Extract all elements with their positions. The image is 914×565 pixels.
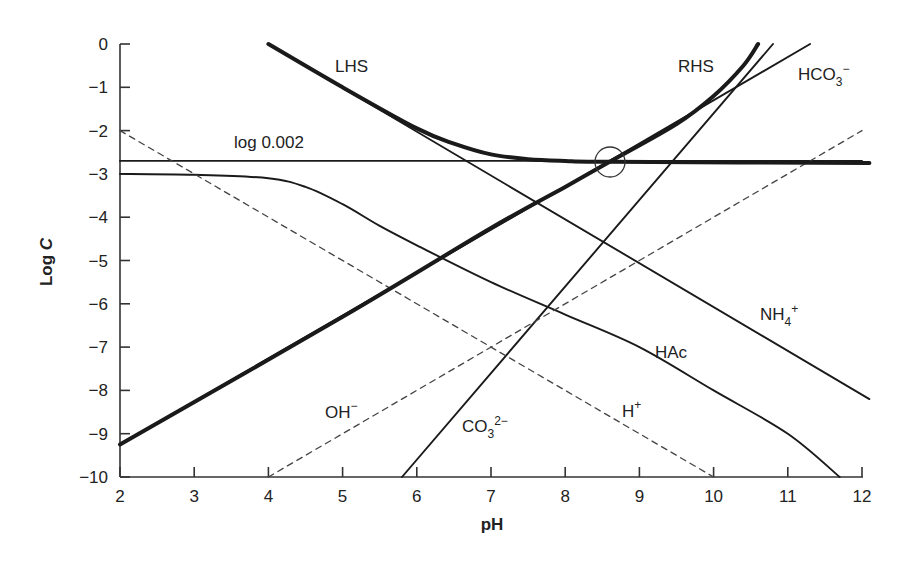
- series-h: [120, 131, 714, 477]
- x-tick-label: 5: [338, 487, 347, 506]
- series-co3-2: [402, 44, 773, 477]
- label-hac: HAc: [655, 343, 688, 362]
- x-tick-label: 10: [704, 487, 723, 506]
- y-tick-label: −3: [89, 165, 108, 184]
- x-tick-label: 3: [189, 487, 198, 506]
- label-lhs: LHS: [335, 57, 368, 76]
- y-tick-label: −9: [89, 425, 108, 444]
- series-lines: [120, 44, 869, 477]
- y-tick-label: −5: [89, 252, 108, 271]
- x-tick-label: 2: [115, 487, 124, 506]
- label-h: H+: [622, 398, 641, 421]
- x-tick-label: 8: [560, 487, 569, 506]
- y-tick-label: −7: [89, 338, 108, 357]
- y-tick-label: −8: [89, 381, 108, 400]
- label-co3: CO32−: [462, 414, 508, 441]
- x-tick-label: 9: [635, 487, 644, 506]
- y-axis-title: Log C: [37, 237, 56, 286]
- label-oh: OH−: [325, 399, 358, 422]
- y-tick-label: −4: [89, 208, 108, 227]
- y-tick-label: −6: [89, 295, 108, 314]
- y-tick-label: −10: [79, 468, 108, 487]
- x-tick-label: 7: [486, 487, 495, 506]
- log-concentration-chart: 234567891011120−1−2−3−4−5−6−7−8−9−10 pH …: [0, 0, 914, 565]
- label-rhs: RHS: [678, 57, 714, 76]
- series-rhs: [120, 44, 758, 445]
- x-axis-title: pH: [481, 515, 504, 534]
- label-nh4: NH4+: [760, 302, 798, 329]
- x-tick-label: 6: [412, 487, 421, 506]
- y-tick-label: −1: [89, 78, 108, 97]
- x-tick-label: 4: [264, 487, 273, 506]
- y-tick-label: −2: [89, 122, 108, 141]
- label-log-0-002: log 0.002: [234, 133, 304, 152]
- y-tick-label: 0: [99, 35, 108, 54]
- x-tick-label: 12: [853, 487, 872, 506]
- x-tick-label: 11: [779, 487, 797, 506]
- label-hco3: HCO3−: [798, 62, 849, 89]
